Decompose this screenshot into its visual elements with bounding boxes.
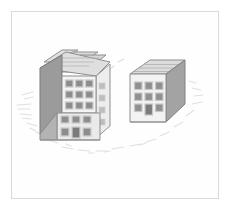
building-left bbox=[40, 50, 110, 140]
buildings-illustration bbox=[0, 0, 231, 211]
building-left-upper-windows bbox=[66, 80, 94, 109]
building-right-door bbox=[145, 104, 153, 115]
building-left-door bbox=[72, 127, 80, 138]
building-right bbox=[130, 60, 185, 122]
illustration-canvas: Isometric sketch of two apartment buildi… bbox=[0, 0, 231, 211]
